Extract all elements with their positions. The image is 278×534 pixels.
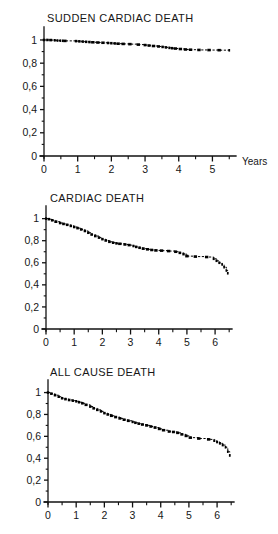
y-tick-label-cardiac-1: 0,2 (24, 301, 39, 313)
x-axis-sudden: 012345 (40, 156, 236, 175)
x-tick-label-sudden-5: 5 (209, 163, 215, 175)
plot-area-cardiac (45, 219, 229, 274)
y-tick-label-cardiac-0: 0 (33, 323, 39, 335)
panel-cardiac-death: CARDIAC DEATH 00,20,40,60,81 0123456 (0, 180, 278, 355)
x-tick-label-all-3: 3 (130, 509, 136, 521)
y-tick-label-all-1: 0,2 (26, 474, 41, 486)
y-tick-label-all-3: 0,6 (26, 430, 41, 442)
y-tick-label-sudden-5: 1 (31, 34, 37, 46)
x-tick-label-all-5: 5 (186, 509, 192, 521)
y-tick-label-cardiac-5: 1 (33, 212, 39, 224)
y-tick-label-all-0: 0 (35, 496, 41, 508)
x-tick-label-sudden-2: 2 (108, 163, 114, 175)
x-tick-label-all-1: 1 (73, 509, 79, 521)
panel-sudden-cardiac-death: SUDDEN CARDIAC DEATH 00,20,40,60,81 0123… (0, 0, 278, 180)
chart-title-all-cause-death: ALL CAUSE DEATH (50, 366, 156, 378)
x-tick-label-cardiac-4: 4 (156, 336, 162, 348)
y-axis-cardiac: 00,20,40,60,81 (24, 206, 46, 335)
chart-title-cardiac-death: CARDIAC DEATH (50, 192, 144, 204)
survival-figure: SUDDEN CARDIAC DEATH 00,20,40,60,81 0123… (0, 0, 278, 534)
x-tick-label-sudden-4: 4 (176, 163, 182, 175)
y-tick-label-all-5: 1 (35, 386, 41, 398)
y-axis-sudden: 00,20,40,60,81 (22, 27, 44, 162)
y-tick-label-sudden-4: 0,8 (22, 57, 37, 69)
y-tick-label-cardiac-2: 0,4 (24, 278, 39, 290)
y-tick-label-all-4: 0,8 (26, 408, 41, 420)
x-tick-label-cardiac-6: 6 (212, 336, 218, 348)
x-axis-cardiac: 0123456 (42, 329, 232, 348)
chart-all-cause-death: ALL CAUSE DEATH 00,20,40,60,81 0123456 (0, 355, 278, 534)
x-tick-label-sudden-3: 3 (142, 163, 148, 175)
y-tick-label-all-2: 0,4 (26, 452, 41, 464)
x-tick-label-cardiac-0: 0 (43, 336, 49, 348)
y-tick-label-sudden-2: 0,4 (22, 103, 37, 115)
x-tick-label-all-0: 0 (45, 509, 51, 521)
y-tick-label-sudden-1: 0,2 (22, 126, 37, 138)
chart-title-sudden-cardiac-death: SUDDEN CARDIAC DEATH (47, 12, 194, 24)
y-tick-label-cardiac-3: 0,6 (24, 256, 39, 268)
chart-sudden-cardiac-death: SUDDEN CARDIAC DEATH 00,20,40,60,81 0123… (0, 0, 278, 180)
x-tick-label-all-2: 2 (101, 509, 107, 521)
x-tick-label-sudden-0: 0 (41, 163, 47, 175)
x-axis-all: 0123456 (44, 502, 234, 521)
x-tick-label-cardiac-5: 5 (184, 336, 190, 348)
y-axis-all: 00,20,40,60,81 (26, 380, 48, 508)
plot-area-all (47, 393, 231, 456)
chart-cardiac-death: CARDIAC DEATH 00,20,40,60,81 0123456 (0, 180, 278, 355)
x-axis-caption-years: Years (242, 156, 267, 167)
plot-area-sudden (43, 40, 230, 50)
x-tick-label-cardiac-1: 1 (71, 336, 77, 348)
y-tick-label-cardiac-4: 0,8 (24, 234, 39, 246)
x-tick-label-cardiac-2: 2 (99, 336, 105, 348)
panel-all-cause-death: ALL CAUSE DEATH 00,20,40,60,81 0123456 (0, 355, 278, 534)
x-tick-label-all-6: 6 (214, 509, 220, 521)
x-tick-label-cardiac-3: 3 (128, 336, 134, 348)
x-tick-label-all-4: 4 (158, 509, 164, 521)
y-tick-label-sudden-3: 0,6 (22, 80, 37, 92)
y-tick-label-sudden-0: 0 (31, 150, 37, 162)
x-tick-label-sudden-1: 1 (75, 163, 81, 175)
